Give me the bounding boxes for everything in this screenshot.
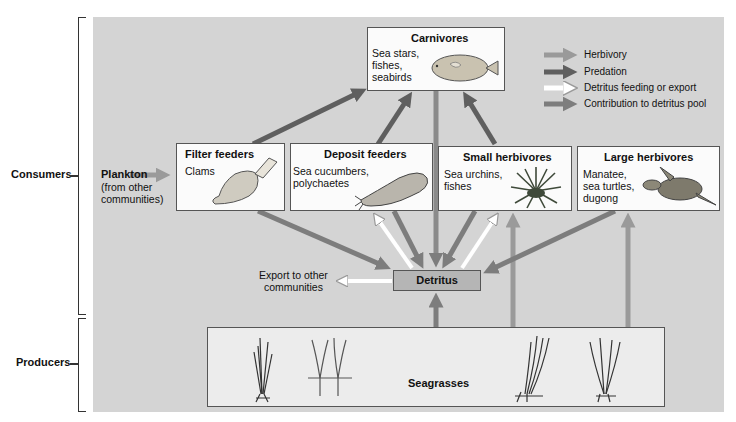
small-herbivores-title: Small herbivores (463, 151, 552, 163)
legend-predation: Predation (584, 66, 627, 77)
sea-cucumber-icon (355, 166, 433, 210)
plankton-title: Plankton (101, 168, 147, 180)
large-herbivores-title: Large herbivores (604, 151, 693, 163)
small-herbivores-box: Small herbivores Sea urchins, fishes (438, 146, 572, 211)
sea-turtle-icon (640, 167, 718, 209)
seagrass-icon (248, 332, 278, 404)
legend-herbivory: Herbivory (584, 49, 627, 60)
seagrass-icon (588, 334, 622, 404)
legend-detritus-feeding: Detritus feeding or export (584, 82, 696, 93)
deposit-feeders-box: Deposit feeders Sea cucumbers, polychaet… (290, 143, 433, 211)
small-herbivores-text: Sea urchins, fishes (444, 168, 502, 192)
legend-contribution: Contribution to detritus pool (584, 98, 706, 109)
seagrasses-title: Seagrasses (408, 377, 469, 389)
sea-urchin-icon (509, 165, 563, 209)
flatfish-icon (428, 48, 502, 88)
export-text: Export to other communities (259, 269, 328, 293)
large-herbivores-box: Large herbivores Manatee, sea turtles, d… (577, 146, 720, 211)
seagrasses-box: Seagrasses (207, 327, 665, 407)
predation-arrows (253, 92, 495, 144)
legend-arrows (544, 55, 570, 104)
carnivores-title: Carnivores (411, 32, 468, 44)
deposit-feeders-title: Deposit feeders (324, 148, 407, 160)
plankton-text: (from other communities) (101, 181, 163, 205)
seagrass-icon (513, 332, 553, 404)
carnivores-box: Carnivores Sea stars, fishes, seabirds (367, 27, 505, 91)
seagrass-icon (308, 334, 352, 402)
filter-feeders-box: Filter feeders Clams (176, 143, 285, 211)
clam-icon (205, 152, 283, 208)
large-herbivores-text: Manatee, sea turtles, dugong (583, 168, 634, 204)
detritus-box: Detritus (393, 270, 481, 291)
carnivores-text: Sea stars, fishes, seabirds (372, 47, 419, 83)
